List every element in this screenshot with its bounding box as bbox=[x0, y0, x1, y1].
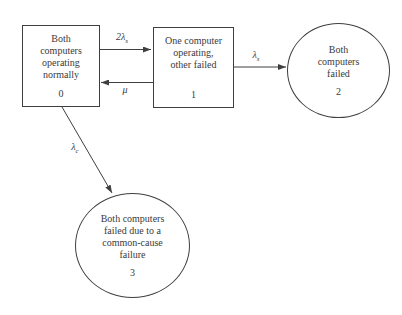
state-transition-diagram: Both computers operating normally 0 One … bbox=[0, 0, 402, 315]
rate-label-0-to-1: 2λs bbox=[104, 31, 140, 43]
state-node-0: Both computers operating normally 0 bbox=[22, 25, 100, 107]
rate-label-0-to-3-subscript: c bbox=[76, 147, 79, 155]
state-1-label: One computer operating, other failed bbox=[165, 35, 222, 71]
rate-label-0-to-1-subscript: s bbox=[125, 37, 128, 45]
state-node-2: Both computers failed 2 bbox=[287, 23, 390, 118]
state-0-number: 0 bbox=[59, 88, 64, 100]
state-2-label: Both computers failed bbox=[318, 44, 360, 80]
rate-label-1-to-2: λs bbox=[238, 49, 274, 61]
state-2-number: 2 bbox=[336, 86, 341, 98]
state-3-label: Both computers failed due to a common-ca… bbox=[101, 213, 165, 261]
rate-label-0-to-1-main: 2λ bbox=[116, 31, 125, 42]
rate-label-0-to-3: λc bbox=[57, 141, 93, 153]
rate-label-1-to-0-main: μ bbox=[122, 84, 127, 95]
rate-label-1-to-2-subscript: s bbox=[257, 55, 260, 63]
state-0-label: Both computers operating normally bbox=[40, 33, 82, 81]
state-node-3: Both computers failed due to a common-ca… bbox=[75, 193, 190, 298]
rate-label-1-to-0: μ bbox=[107, 84, 143, 96]
state-1-number: 1 bbox=[191, 89, 196, 101]
state-3-number: 3 bbox=[130, 267, 135, 279]
state-node-1: One computer operating, other failed 1 bbox=[153, 27, 234, 108]
